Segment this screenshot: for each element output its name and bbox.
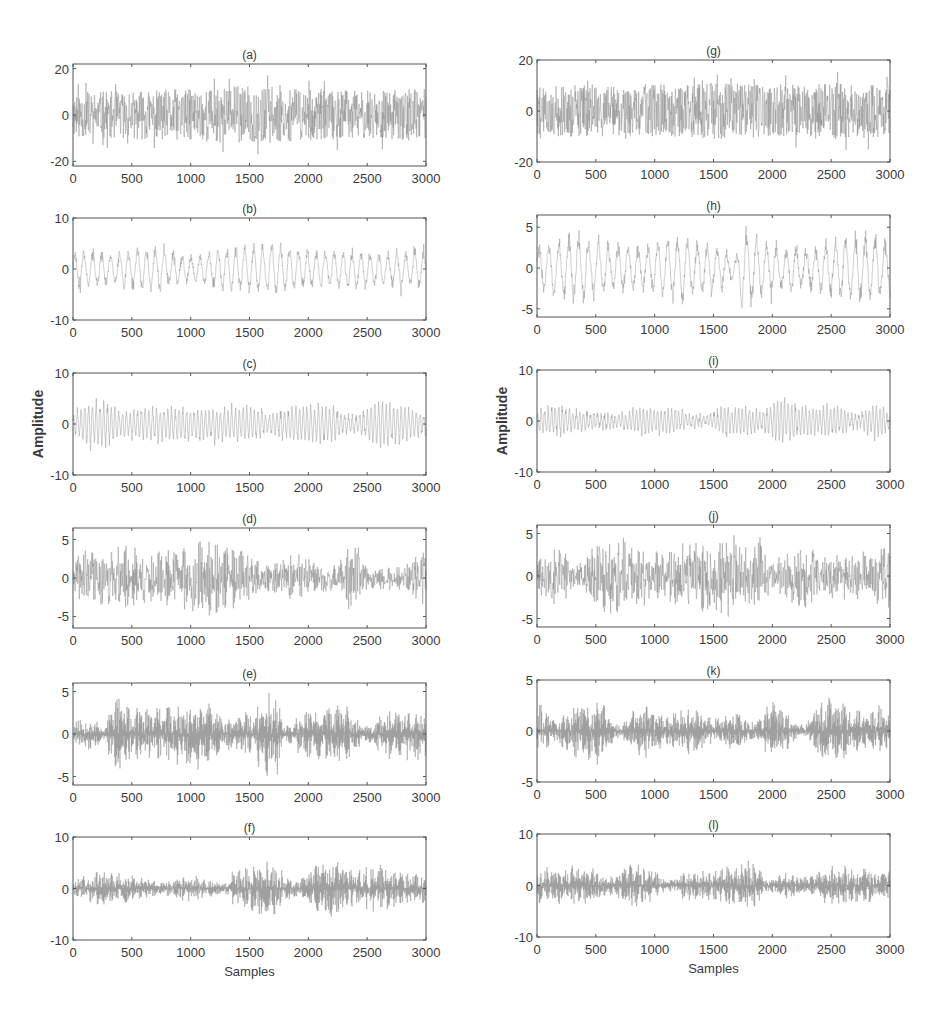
x-tick-label: 1000 (640, 787, 669, 802)
y-tick-label: 0 (526, 569, 533, 584)
panels-layer: (a)050010001500200025003000-20020(b)0500… (30, 44, 904, 979)
y-tick-label: 0 (62, 571, 69, 586)
panel-title: (j) (708, 509, 719, 523)
y-axis-label: Amplitude (30, 390, 46, 459)
x-tick-label: 3000 (876, 477, 905, 492)
x-tick-label: 2500 (353, 945, 382, 960)
panel-a: (a)050010001500200025003000-20020 (50, 48, 440, 186)
x-tick-label: 1000 (640, 167, 669, 182)
x-tick-label: 1500 (235, 171, 264, 186)
y-tick-label: 0 (526, 879, 533, 894)
y-tick-label: -5 (57, 609, 69, 624)
x-tick-label: 2000 (758, 477, 787, 492)
x-tick-label: 1000 (176, 945, 205, 960)
y-tick-label: -10 (50, 933, 69, 948)
panel-d: (d)050010001500200025003000-505 (57, 512, 440, 648)
x-tick-label: 2500 (817, 167, 846, 182)
y-tick-label: 20 (519, 53, 533, 68)
x-tick-label: 500 (121, 480, 143, 495)
panel-i: (i)050010001500200025003000-10010Amplitu… (494, 354, 904, 492)
x-tick-label: 1000 (176, 171, 205, 186)
x-tick-label: 2500 (353, 171, 382, 186)
signal-trace (537, 72, 890, 150)
x-tick-label: 2000 (294, 945, 323, 960)
x-tick-label: 0 (69, 790, 76, 805)
x-tick-label: 0 (69, 633, 76, 648)
panel-title: (k) (707, 664, 721, 678)
panel-b: (b)050010001500200025003000-10010 (50, 202, 440, 340)
panel-title: (g) (706, 44, 721, 58)
x-tick-label: 1000 (640, 632, 669, 647)
y-tick-label: 0 (526, 724, 533, 739)
x-tick-label: 500 (585, 167, 607, 182)
x-tick-label: 2000 (294, 171, 323, 186)
y-tick-label: 10 (519, 827, 533, 842)
panel-title: (a) (242, 48, 257, 62)
x-tick-label: 500 (121, 171, 143, 186)
y-tick-label: 10 (55, 211, 69, 226)
x-tick-label: 3000 (412, 633, 441, 648)
x-tick-label: 0 (533, 167, 540, 182)
x-tick-label: 0 (69, 945, 76, 960)
x-tick-label: 1000 (176, 633, 205, 648)
x-tick-label: 1500 (235, 633, 264, 648)
panel-title: (c) (243, 357, 257, 371)
y-tick-label: 5 (62, 533, 69, 548)
plot-frame (537, 215, 890, 317)
y-tick-label: -20 (50, 154, 69, 169)
y-tick-label: -10 (50, 313, 69, 328)
panel-title: (d) (242, 512, 257, 526)
panel-f: (f)050010001500200025003000-10010Samples (50, 821, 440, 979)
y-tick-label: 0 (62, 417, 69, 432)
x-tick-label: 1500 (235, 790, 264, 805)
y-tick-label: -5 (521, 612, 533, 627)
x-tick-label: 2000 (758, 322, 787, 337)
x-tick-label: 0 (533, 632, 540, 647)
y-tick-label: 0 (62, 262, 69, 277)
y-axis-label: Amplitude (494, 387, 510, 456)
y-tick-label: -5 (57, 770, 69, 785)
x-tick-label: 500 (121, 790, 143, 805)
x-tick-label: 2500 (817, 632, 846, 647)
panel-e: (e)050010001500200025003000-505 (57, 667, 440, 805)
y-tick-label: -10 (514, 465, 533, 480)
y-tick-label: 5 (526, 220, 533, 235)
x-tick-label: 0 (533, 942, 540, 957)
signal-trace (73, 693, 426, 776)
y-tick-label: 0 (526, 261, 533, 276)
panel-k: (k)050010001500200025003000-505 (521, 664, 904, 802)
y-tick-label: -5 (521, 775, 533, 790)
y-tick-label: 5 (526, 527, 533, 542)
x-tick-label: 3000 (876, 322, 905, 337)
panel-title: (e) (242, 667, 257, 681)
x-tick-label: 1500 (699, 632, 728, 647)
signal-trace (537, 861, 890, 907)
x-tick-label: 2500 (353, 790, 382, 805)
x-tick-label: 500 (121, 325, 143, 340)
plot-frame (537, 370, 890, 472)
x-tick-label: 2000 (758, 167, 787, 182)
x-tick-label: 2000 (294, 633, 323, 648)
x-axis-label: Samples (224, 964, 275, 979)
panel-title: (l) (708, 818, 719, 832)
x-tick-label: 2500 (353, 633, 382, 648)
signal-trace (73, 862, 426, 917)
x-axis-label: Samples (688, 961, 739, 976)
x-tick-label: 2500 (817, 477, 846, 492)
x-tick-label: 1500 (699, 787, 728, 802)
x-tick-label: 1500 (699, 477, 728, 492)
x-tick-label: 1500 (699, 942, 728, 957)
x-tick-label: 1500 (235, 480, 264, 495)
panel-title: (f) (244, 821, 255, 835)
x-tick-label: 1000 (640, 942, 669, 957)
x-tick-label: 500 (585, 477, 607, 492)
x-tick-label: 0 (533, 322, 540, 337)
x-tick-label: 2000 (294, 790, 323, 805)
x-tick-label: 1000 (640, 477, 669, 492)
figure: (a)050010001500200025003000-20020(b)0500… (0, 0, 945, 1021)
x-tick-label: 3000 (876, 787, 905, 802)
x-tick-label: 2000 (294, 325, 323, 340)
x-tick-label: 3000 (876, 167, 905, 182)
x-tick-label: 3000 (876, 942, 905, 957)
y-tick-label: 0 (62, 882, 69, 897)
